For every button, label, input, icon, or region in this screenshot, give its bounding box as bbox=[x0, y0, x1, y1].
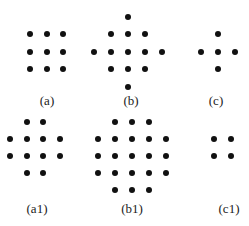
dot-icon bbox=[198, 49, 204, 55]
dot-icon bbox=[57, 136, 63, 142]
dot-icon bbox=[24, 153, 30, 159]
dot-icon bbox=[60, 66, 66, 72]
dot-icon bbox=[125, 14, 131, 20]
dot-icon bbox=[211, 153, 217, 159]
dot-icon bbox=[215, 49, 221, 55]
dot-icon bbox=[211, 136, 217, 142]
dot-icon bbox=[44, 49, 50, 55]
panel-label: (a) bbox=[40, 93, 54, 109]
dot-icon bbox=[60, 49, 66, 55]
dot-icon bbox=[125, 49, 131, 55]
dot-icon bbox=[146, 119, 152, 125]
dot-icon bbox=[125, 31, 131, 37]
dot-icon bbox=[232, 49, 238, 55]
dot-icon bbox=[163, 136, 169, 142]
panel-label: (c) bbox=[209, 93, 223, 109]
dot-icon bbox=[163, 153, 169, 159]
panel-label: (c1) bbox=[219, 201, 240, 217]
dot-icon bbox=[112, 136, 118, 142]
dot-icon bbox=[24, 119, 30, 125]
dot-icon bbox=[40, 170, 46, 176]
dot-icon bbox=[142, 31, 148, 37]
dot-icon bbox=[24, 170, 30, 176]
dot-icon bbox=[142, 49, 148, 55]
dot-icon bbox=[44, 31, 50, 37]
dot-pattern-figure: (a) (b) (c) (a1) (b1) (c1) bbox=[0, 0, 249, 226]
dot-icon bbox=[125, 84, 131, 90]
dot-icon bbox=[129, 153, 135, 159]
dot-icon bbox=[215, 31, 221, 37]
dot-icon bbox=[228, 153, 234, 159]
dot-icon bbox=[91, 49, 97, 55]
dot-icon bbox=[129, 119, 135, 125]
dot-icon bbox=[57, 153, 63, 159]
dot-icon bbox=[142, 66, 148, 72]
dot-icon bbox=[129, 170, 135, 176]
dot-icon bbox=[112, 153, 118, 159]
dot-icon bbox=[40, 136, 46, 142]
dot-icon bbox=[108, 49, 114, 55]
dot-icon bbox=[112, 187, 118, 193]
dot-icon bbox=[7, 136, 13, 142]
dot-icon bbox=[146, 136, 152, 142]
dot-icon bbox=[95, 170, 101, 176]
dot-icon bbox=[146, 187, 152, 193]
dot-icon bbox=[125, 66, 131, 72]
dot-icon bbox=[40, 153, 46, 159]
dot-icon bbox=[27, 31, 33, 37]
dot-icon bbox=[108, 31, 114, 37]
dot-icon bbox=[146, 153, 152, 159]
dot-icon bbox=[163, 170, 169, 176]
panel-label: (b) bbox=[123, 93, 138, 109]
panel-label: (a1) bbox=[27, 201, 48, 217]
dot-icon bbox=[27, 49, 33, 55]
dot-icon bbox=[27, 66, 33, 72]
dot-icon bbox=[112, 170, 118, 176]
dot-icon bbox=[159, 49, 165, 55]
dot-icon bbox=[44, 66, 50, 72]
dot-icon bbox=[129, 136, 135, 142]
dot-icon bbox=[60, 31, 66, 37]
dot-icon bbox=[215, 66, 221, 72]
dot-icon bbox=[24, 136, 30, 142]
dot-icon bbox=[112, 119, 118, 125]
dot-icon bbox=[7, 153, 13, 159]
dot-icon bbox=[129, 187, 135, 193]
panel-label: (b1) bbox=[121, 201, 143, 217]
dot-icon bbox=[95, 136, 101, 142]
dot-icon bbox=[40, 119, 46, 125]
dot-icon bbox=[108, 66, 114, 72]
dot-icon bbox=[228, 136, 234, 142]
dot-icon bbox=[146, 170, 152, 176]
dot-icon bbox=[95, 153, 101, 159]
